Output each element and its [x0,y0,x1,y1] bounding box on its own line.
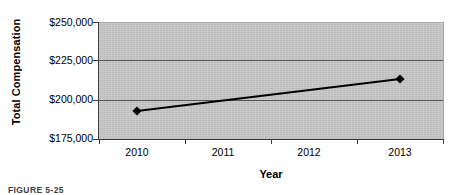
plot-area [99,22,444,140]
x-tick-label-2013: 2013 [365,146,435,158]
x-tick-mark-3 [357,139,358,144]
data-point-marker-2010 [132,106,141,115]
y-tick-label-200000: $200,000 [31,94,93,105]
x-tick-label-2012: 2012 [274,146,344,158]
y-axis-title: Total Compensation [8,7,24,137]
y-tick-label-175000: $175,000 [31,133,93,144]
figure-caption: FIGURE 5-25 [8,186,64,195]
series-segment-2010-2013 [137,79,400,111]
y-tick-label-250000: $250,000 [31,17,93,28]
x-tick-label-2011: 2011 [188,146,258,158]
y-tick-label-225000: $225,000 [31,55,93,66]
data-series-line [99,23,443,140]
x-tick-mark-end [443,139,444,144]
figure-root: Total Compensation $250,000 $225,000 $20… [0,0,453,195]
x-tick-mark-2 [271,139,272,144]
x-tick-mark-start [99,139,100,144]
y-axis-tick-labels: $250,000 $225,000 $200,000 $175,000 [30,0,93,195]
x-axis-title: Year [99,168,443,181]
data-point-marker-2013 [395,74,404,83]
x-tick-mark-1 [185,139,186,144]
x-tick-label-2010: 2010 [102,146,172,158]
